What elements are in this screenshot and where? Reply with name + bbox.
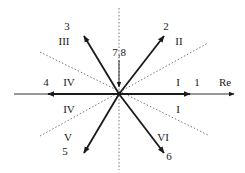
sector-label-v: V (64, 132, 72, 143)
sector-label-ii: II (175, 36, 182, 47)
vector-6 (119, 94, 164, 153)
vector-label-5: 5 (62, 146, 68, 157)
vector-label-3: 3 (64, 21, 70, 32)
vector-5 (84, 94, 119, 153)
vector-label-1: 1 (194, 77, 200, 88)
sector-label-i-lower: I (176, 104, 180, 115)
vector-label-4: 4 (43, 77, 49, 88)
vector-label-6: 6 (166, 151, 172, 162)
phasor-diagram (0, 0, 245, 173)
sector-label-iv-lower: IV (63, 104, 75, 115)
sector-label-iv-upper: IV (63, 77, 75, 88)
sector-label-vi: VI (157, 132, 169, 143)
sector-label-i-upper: I (176, 77, 180, 88)
sector-label-iii: III (59, 36, 70, 47)
axis-label-re: Re (219, 77, 231, 88)
vector-label-7-8: 7,8 (112, 47, 126, 58)
vector-label-2: 2 (163, 21, 169, 32)
